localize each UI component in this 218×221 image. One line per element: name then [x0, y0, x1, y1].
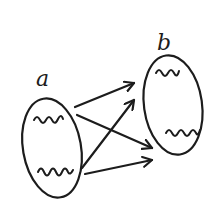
arrow-a2-to-b2: [85, 160, 152, 174]
set-a-ellipse: [15, 94, 89, 203]
arrow-a2-to-b1: [82, 100, 134, 168]
set-a: a: [15, 66, 89, 202]
set-a-element-2-squiggle-icon: [38, 169, 73, 176]
arrow-a1-to-b2: [77, 115, 152, 148]
set-b-label: b: [157, 30, 171, 55]
set-b-element-1-squiggle-icon: [156, 70, 179, 76]
set-b-ellipse: [137, 51, 208, 158]
set-b: b: [137, 30, 208, 159]
arrow-a1-to-b1: [75, 83, 134, 107]
mapping-arrows: [75, 83, 152, 174]
set-b-element-2-squiggle-icon: [166, 130, 200, 136]
set-mapping-diagram: a b: [0, 0, 218, 221]
set-a-label: a: [36, 66, 49, 91]
set-a-element-1-squiggle-icon: [34, 116, 63, 123]
